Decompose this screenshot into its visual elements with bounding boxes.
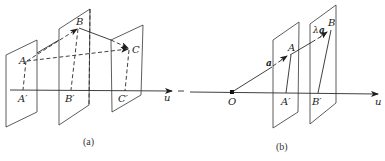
label-lambda: λ [312, 25, 319, 35]
vector-BC-dash [111, 40, 128, 48]
figure-b: O A B A′ B′ a λ a u (b) [190, 5, 381, 153]
label-vector-a: a [266, 58, 272, 68]
label-B-prime: B′ [64, 93, 75, 104]
axis-u-a [10, 90, 172, 91]
vector-AC [27, 49, 128, 61]
plane-A-b [273, 22, 299, 128]
label-B: B [75, 16, 83, 27]
plane-a-left [6, 40, 37, 127]
label-B-b: B [327, 17, 335, 28]
label-A: A [18, 55, 26, 66]
label-B-prime-b: B′ [311, 96, 322, 107]
axis-u-b [190, 92, 378, 94]
label-A-b: A [287, 42, 295, 53]
caption-b: (b) [276, 141, 288, 153]
label-A-prime: A′ [17, 93, 28, 104]
proj-B-to-B-prime [71, 29, 78, 90]
proj-A-to-A-prime-b [286, 55, 291, 93]
caption-a: (a) [83, 136, 94, 148]
vector-a [281, 56, 287, 60]
label-O: O [228, 96, 236, 107]
vector-BC [79, 28, 111, 40]
figure-a: A B C A′ B′ C′ u (a) [6, 9, 184, 148]
vector-O-to-plane [232, 67, 272, 92]
label-axis-u-a: u [164, 92, 170, 103]
vector-AB-solid [37, 40, 59, 53]
label-axis-u-b: u [375, 96, 381, 107]
proj-C-to-C-prime [125, 50, 129, 91]
label-C: C [132, 44, 140, 55]
plane-b-middle [59, 9, 90, 125]
proj-B-to-B-prime-b [318, 30, 331, 93]
label-A-prime-b: A′ [280, 96, 291, 107]
label-C-prime: C′ [118, 93, 129, 104]
label-vector-lambda-a: a [319, 25, 325, 35]
projection-diagram: A B C A′ B′ C′ u (a) O A B A′ B′ a [0, 0, 385, 161]
